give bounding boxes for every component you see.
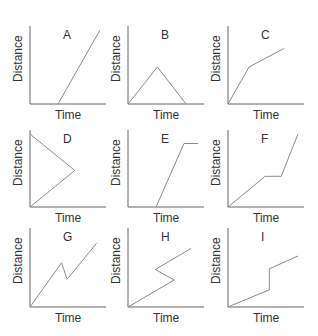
distance-line <box>228 256 298 307</box>
graph-title: I <box>261 230 264 244</box>
x-axis-label: Time <box>253 311 279 325</box>
y-axis-label: Distance <box>209 237 223 284</box>
axes <box>228 228 304 307</box>
graph-plot <box>0 0 318 336</box>
